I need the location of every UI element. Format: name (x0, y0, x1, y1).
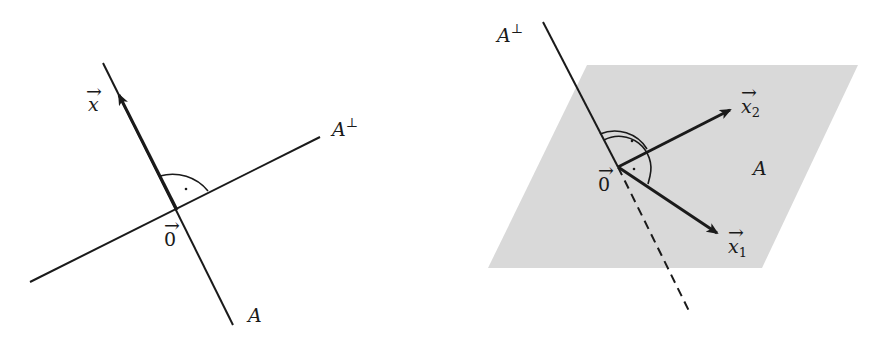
right-angle-dot-1 (631, 140, 634, 143)
right-angle-dot-2 (633, 168, 636, 171)
label-plane-a: A (751, 157, 767, 179)
origin-arrow-accent: → (598, 159, 614, 181)
vector-arrow-accent: → (86, 80, 102, 102)
label-a: A (246, 304, 262, 326)
label-a-perp: A⊥ (495, 21, 523, 46)
right-diagram: A⊥ x2 → x1 → A 0 → (488, 21, 858, 313)
left-diagram: x → A⊥ A 0 → (30, 63, 358, 326)
plane-a (488, 65, 858, 268)
line-a-perp (30, 137, 320, 282)
x1-arrow-accent: → (728, 221, 744, 243)
right-angle-dot (185, 188, 188, 191)
diagram-canvas: x → A⊥ A 0 → A⊥ x2 → x1 → A 0 → (0, 0, 883, 350)
origin-arrow-accent: → (164, 214, 180, 236)
label-a-perp: A⊥ (330, 115, 358, 140)
vector-x-arrow (119, 95, 177, 210)
x2-arrow-accent: → (741, 81, 757, 103)
